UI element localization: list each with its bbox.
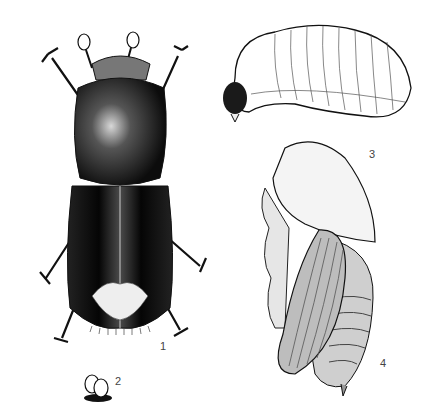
figure-label-pupa: 4: [380, 357, 386, 369]
adult-beetle-figure: [20, 28, 220, 358]
illustration-plate: 1 2 3: [0, 0, 426, 417]
larva-figure: [215, 18, 415, 128]
figure-label-adult: 1: [160, 340, 166, 352]
figure-label-eggs: 2: [115, 375, 121, 387]
pupa-figure: [255, 138, 385, 398]
eggs-figure: [80, 368, 120, 404]
